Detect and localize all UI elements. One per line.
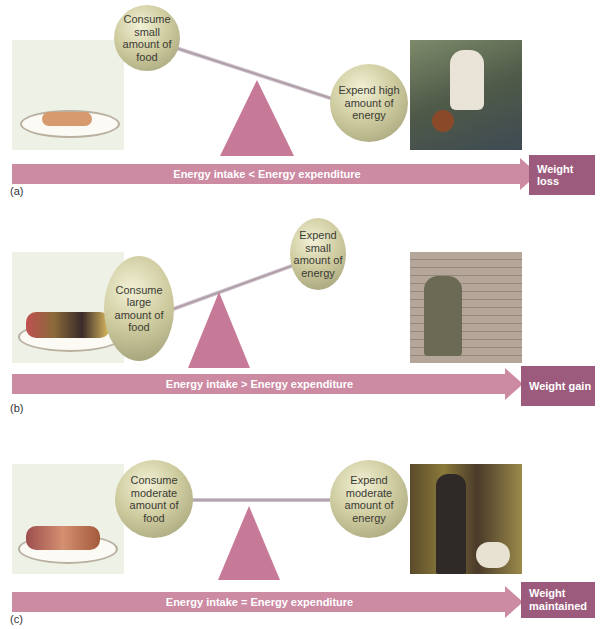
panel-label: (c)	[10, 613, 23, 625]
result-box: Weight maintained	[521, 582, 595, 618]
food-items-icon	[26, 312, 110, 338]
right-sphere: Expend moderate amount of energy	[330, 460, 408, 538]
panel-b: Consume large amount of food Expend smal…	[0, 200, 612, 420]
panel-label: (b)	[10, 402, 23, 414]
photo-basketball	[410, 40, 522, 150]
food-items-icon	[42, 112, 92, 126]
food-items-icon	[26, 526, 100, 550]
panel-label: (a)	[10, 185, 23, 197]
photo-walking-dog	[410, 464, 522, 574]
person-figure	[424, 276, 462, 356]
fulcrum-pyramid	[220, 80, 294, 156]
panel-a: Consume small amount of food Expend high…	[0, 0, 612, 200]
balance-beam	[190, 498, 330, 502]
right-sphere: Expend high amount of energy	[330, 64, 408, 142]
panel-c: Consume moderate amount of food Expend m…	[0, 420, 612, 629]
left-sphere: Consume large amount of food	[104, 256, 174, 361]
right-sphere: Expend small amount of energy	[290, 218, 346, 290]
left-sphere: Consume moderate amount of food	[115, 460, 193, 538]
result-box: Weight loss	[529, 155, 595, 195]
energy-arrow: Energy intake < Energy expenditure	[12, 164, 522, 184]
fulcrum-pyramid	[218, 506, 280, 580]
food-image-small	[12, 40, 124, 150]
food-image-moderate	[12, 464, 124, 574]
fulcrum-pyramid	[188, 292, 250, 368]
basketball-icon	[432, 110, 454, 132]
person-figure	[436, 474, 466, 574]
person-figure	[450, 50, 484, 110]
energy-arrow: Energy intake = Energy expenditure	[12, 592, 507, 612]
left-sphere: Consume small amount of food	[114, 5, 180, 71]
result-box: Weight gain	[521, 366, 595, 406]
photo-laptop	[410, 252, 522, 363]
dog-figure	[476, 542, 510, 568]
energy-arrow: Energy intake > Energy expenditure	[12, 374, 507, 394]
